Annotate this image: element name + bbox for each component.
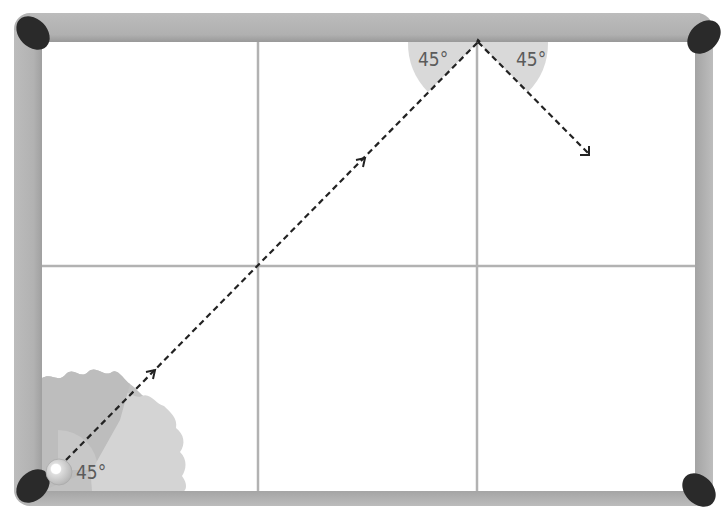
start-angle-label: 45°	[76, 461, 106, 483]
rail-bottom	[30, 490, 700, 506]
incidence-angle-label: 45°	[418, 48, 448, 70]
rail-left	[14, 30, 42, 492]
billiard-reflection-diagram: 45° 45° 45°	[0, 0, 727, 522]
cue-ball	[46, 459, 72, 485]
arrow-icon	[477, 40, 480, 42]
reflection-angle-label: 45°	[516, 48, 546, 70]
rail-top	[30, 13, 700, 42]
rail-right	[695, 30, 713, 492]
